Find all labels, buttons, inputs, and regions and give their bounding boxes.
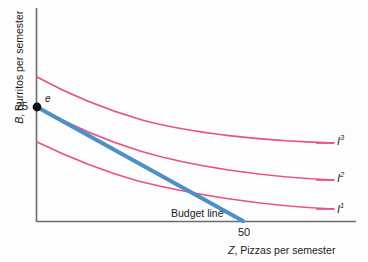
ic1-superscript: 1 [340,201,344,210]
x-tick-label-50: 50 [238,227,250,238]
indifference-curve-i1 [37,142,334,209]
chart-plot-area [0,0,368,262]
x-axis-label: Z, Pizzas per semester [228,245,335,256]
ic2-superscript: 2 [340,170,344,179]
indifference-curve-label-i1: I1 [337,202,344,215]
x-axis-label-text: , Pizzas per semester [234,244,335,256]
optimal-bundle-point [33,103,42,112]
y-axis-label: B, Burritos per semester [14,0,25,142]
indifference-curve-label-i3: I3 [337,134,344,147]
budget-line-label: Budget line [171,208,224,219]
y-tick-label-25: 25 [16,101,28,112]
budget-line [37,107,243,221]
indifference-curve-i2 [37,107,334,180]
indifference-curve-chart: B, Burritos per semester Z, Pizzas per s… [0,0,368,262]
y-axis-label-variable: B [13,117,25,124]
optimal-bundle-label: e [45,94,51,104]
indifference-curve-label-i2: I2 [337,171,344,184]
ic3-superscript: 3 [340,133,344,142]
